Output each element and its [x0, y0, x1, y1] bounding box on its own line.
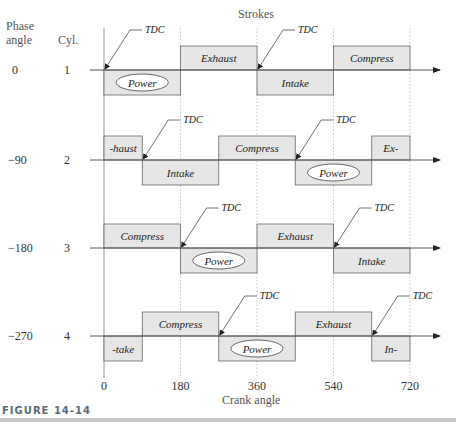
tdc-arrow [182, 208, 207, 247]
tdc-label: TDC [222, 202, 242, 213]
stroke-label: Power [318, 167, 348, 179]
stroke-label: Power [203, 255, 233, 267]
stroke-label: Intake [166, 167, 195, 179]
tdc-label: TDC [375, 202, 395, 213]
stroke-label: Intake [357, 255, 386, 267]
tdc-label: TDC [336, 114, 356, 125]
x-axis-ticks: 0180360540720 [101, 379, 419, 393]
stroke-label: Exhaust [315, 318, 352, 330]
stroke-label: Exhaust [277, 230, 314, 242]
cylinder-label: Cyl. [58, 33, 78, 47]
phase-angle-value: 0 [12, 63, 18, 77]
tdc-label: TDC [183, 114, 203, 125]
x-axis-label: Crank angle [222, 393, 280, 407]
caption-divider [0, 418, 456, 422]
x-tick-label: 720 [401, 379, 419, 393]
stroke-label: Compress [350, 52, 394, 64]
cylinder-rows: 01PowerExhaustIntakeCompressTDCTDC−902-h… [8, 24, 440, 361]
stroke-label: Compress [120, 230, 164, 242]
tdc-label: TDC [145, 24, 165, 35]
tdc-label: TDC [298, 24, 318, 35]
cylinder-number: 2 [64, 153, 70, 167]
tdc-arrow [258, 30, 283, 69]
phase-angle-value: −180 [8, 241, 33, 255]
stroke-label: Compress [159, 318, 203, 330]
cylinder-number: 4 [64, 329, 70, 343]
stroke-label: -take [112, 343, 134, 355]
tdc-arrow [105, 30, 130, 69]
x-tick-label: 0 [101, 379, 107, 393]
x-tick-label: 360 [248, 379, 266, 393]
stroke-label: In- [383, 343, 397, 355]
tdc-arrow [220, 296, 245, 335]
stroke-label: Power [242, 343, 272, 355]
tdc-label: TDC [413, 290, 433, 301]
tdc-arrow [143, 120, 168, 159]
strokes-label: Strokes [238, 7, 274, 21]
stroke-label: Power [127, 77, 157, 89]
phase-angle-value: −90 [8, 153, 27, 167]
phase-angle-value: −270 [8, 329, 33, 343]
tdc-arrow [373, 296, 398, 335]
figure-label: FIGURE 14-14 [2, 405, 91, 416]
cylinder-number: 1 [64, 63, 70, 77]
tdc-label: TDC [260, 290, 280, 301]
cylinder-row-4: −2704-takeCompressPowerExhaustIn-TDCTDC [8, 290, 440, 361]
cylinder-row-2: −902-haustIntakeCompressPowerEx-TDCTDC [8, 114, 440, 185]
cylinder-row-3: −1803CompressPowerExhaustIntakeTDCTDC [8, 202, 440, 273]
stroke-label: Ex- [382, 142, 399, 154]
phase-angle-label-2: angle [6, 33, 32, 47]
firing-order-diagram: Strokes Phase angle Cyl. 01PowerExhaustI… [0, 0, 456, 425]
cylinder-number: 3 [64, 241, 70, 255]
stroke-label: -haust [109, 142, 137, 154]
x-tick-label: 180 [172, 379, 190, 393]
tdc-arrow [296, 120, 321, 159]
tdc-arrow [335, 208, 360, 247]
stroke-label: Compress [235, 142, 279, 154]
phase-angle-label: Phase [6, 19, 34, 33]
stroke-label: Exhaust [200, 52, 237, 64]
stroke-label: Intake [281, 77, 310, 89]
x-tick-label: 540 [325, 379, 343, 393]
